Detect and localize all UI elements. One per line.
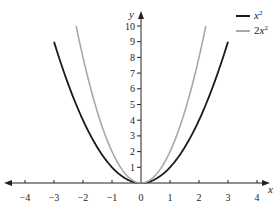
- x-tick-label: −1: [107, 192, 118, 203]
- x-tick-label: −3: [49, 192, 60, 203]
- y-tick-label: 7: [130, 68, 135, 79]
- x-tick-label: −4: [20, 192, 31, 203]
- x-tick-label: 3: [226, 192, 231, 203]
- x-tick-label: 2: [197, 192, 202, 203]
- chart-svg: xy−4−3−2−10123412345678910 x2 2x2: [0, 0, 275, 214]
- y-tick-label: 8: [130, 52, 135, 63]
- y-tick-label: 1: [130, 162, 135, 173]
- x-tick-label: 4: [255, 192, 260, 203]
- x-tick-label: 0: [139, 192, 144, 203]
- y-axis-label: y: [128, 8, 134, 20]
- y-tick-label: 4: [130, 115, 135, 126]
- legend: x2 2x2: [236, 9, 268, 36]
- y-axis-arrow-icon: [138, 11, 144, 19]
- x-tick-label: 1: [168, 192, 173, 203]
- y-tick-label: 5: [130, 99, 135, 110]
- y-tick-label: 3: [130, 130, 135, 141]
- y-tick-label: 10: [125, 21, 135, 32]
- legend-label-x2: x2: [253, 9, 263, 21]
- x-axis-label: x: [267, 183, 273, 195]
- x-tick-label: −2: [78, 192, 89, 203]
- legend-label-2x2: 2x2: [254, 24, 268, 36]
- y-tick-label: 9: [130, 36, 135, 47]
- y-tick-label: 2: [130, 146, 135, 157]
- x-axis-left-arrow-icon: [4, 180, 12, 186]
- axes: xy−4−3−2−10123412345678910: [4, 8, 273, 203]
- y-tick-label: 6: [130, 83, 135, 94]
